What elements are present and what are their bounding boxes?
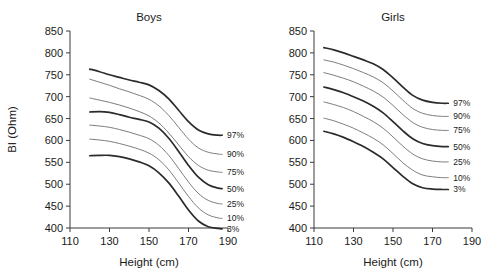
percentile-chart: Boys400450500550600650700750800850110130… [0, 0, 498, 275]
percentile-curve-25pct [90, 125, 222, 204]
percentile-label-90pct: 90% [227, 149, 244, 159]
x-tick-label: 170 [179, 235, 197, 247]
panel-girls: Girls40045050055060065070075080085011013… [289, 11, 482, 268]
x-tick-label: 110 [305, 235, 323, 247]
y-tick-label: 450 [45, 200, 63, 212]
y-tick-label: 700 [289, 91, 307, 103]
percentile-label-3pct: 3% [227, 224, 240, 234]
y-tick-label: 550 [45, 156, 63, 168]
percentile-curve-10pct [90, 139, 222, 218]
x-axis-title: Height (cm) [119, 256, 179, 268]
percentile-label-50pct: 50% [453, 142, 470, 152]
y-tick-label: 850 [45, 25, 63, 37]
percentile-curve-97pct [324, 48, 448, 104]
percentile-label-90pct: 90% [453, 111, 470, 121]
percentile-curve-25pct [324, 102, 448, 162]
x-tick-label: 170 [423, 235, 441, 247]
y-tick-label: 500 [45, 178, 63, 190]
x-tick-label: 130 [344, 235, 362, 247]
y-tick-label: 600 [45, 134, 63, 146]
y-tick-label: 650 [45, 113, 63, 125]
percentile-label-25pct: 25% [453, 157, 470, 167]
x-tick-label: 130 [100, 235, 118, 247]
x-tick-label: 150 [384, 235, 402, 247]
percentile-label-25pct: 25% [227, 199, 244, 209]
panel-boys: Boys400450500550600650700750800850110130… [6, 11, 245, 268]
x-axis-title: Height (cm) [363, 256, 423, 268]
percentile-curve-10pct [324, 118, 448, 178]
x-tick-label: 190 [219, 235, 237, 247]
y-tick-label: 750 [289, 69, 307, 81]
percentile-label-75pct: 75% [227, 167, 244, 177]
panel-title-girls: Girls [381, 11, 405, 23]
y-tick-label: 650 [289, 113, 307, 125]
percentile-label-3pct: 3% [453, 184, 466, 194]
y-tick-label: 450 [289, 200, 307, 212]
y-tick-label: 800 [45, 47, 63, 59]
y-tick-label: 600 [289, 134, 307, 146]
y-axis-title: BI (Ohm) [6, 106, 18, 153]
y-tick-label: 750 [45, 69, 63, 81]
y-tick-label: 800 [289, 47, 307, 59]
x-tick-label: 110 [61, 235, 79, 247]
percentile-label-50pct: 50% [227, 184, 244, 194]
y-tick-label: 400 [45, 222, 63, 234]
percentile-label-10pct: 10% [227, 213, 244, 223]
x-tick-label: 190 [463, 235, 481, 247]
percentile-label-10pct: 10% [453, 173, 470, 183]
y-tick-label: 700 [45, 91, 63, 103]
figure-container: Boys400450500550600650700750800850110130… [0, 0, 498, 275]
y-tick-label: 500 [289, 178, 307, 190]
y-tick-label: 400 [289, 222, 307, 234]
percentile-curve-75pct [90, 98, 222, 172]
percentile-curve-3pct [90, 155, 222, 229]
percentile-curve-90pct [324, 60, 448, 117]
percentile-label-97pct: 97% [227, 130, 244, 140]
y-tick-label: 550 [289, 156, 307, 168]
panel-title-boys: Boys [136, 11, 162, 23]
percentile-label-97pct: 97% [453, 98, 470, 108]
y-tick-label: 850 [289, 25, 307, 37]
x-tick-label: 150 [140, 235, 158, 247]
percentile-label-75pct: 75% [453, 125, 470, 135]
